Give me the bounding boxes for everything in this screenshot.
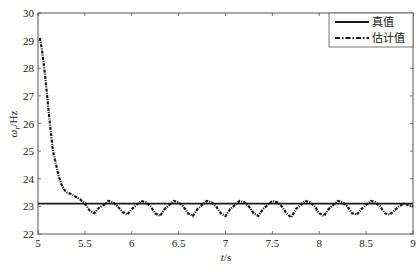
legend-label-estimate: 估计值 (372, 32, 405, 45)
x-tick-label: 8.5 (359, 237, 373, 249)
x-tick-label: 7.5 (266, 237, 280, 249)
legend: 真值 估计值 (329, 13, 413, 47)
x-tick-label: 6 (129, 237, 135, 249)
y-tick-label: 25 (23, 145, 35, 157)
x-tick-label: 6.5 (172, 237, 186, 249)
y-tick-label: 22 (23, 228, 34, 240)
y-axis-label: ωr/Hz (7, 110, 22, 137)
x-tick-label: 5.5 (78, 237, 92, 249)
y-tick-label: 28 (23, 62, 35, 74)
x-axis-label-unit: /s (224, 251, 231, 263)
y-tick-label: 23 (23, 200, 35, 212)
x-tick-label: 7 (223, 237, 229, 249)
x-tick-label: 9 (410, 237, 416, 249)
y-tick-label: 30 (23, 7, 35, 19)
chart: 222324252627282930 55.566.577.588.59 ωr/… (0, 0, 419, 271)
y-axis-label-unit: /Hz (7, 110, 19, 126)
y-tick-label: 27 (23, 90, 35, 102)
legend-label-true: 真值 (372, 15, 394, 29)
y-tick-label: 29 (23, 35, 35, 47)
y-tick-label: 24 (23, 173, 35, 185)
x-tick-label: 5 (35, 237, 41, 249)
x-tick-label: 8 (317, 237, 323, 249)
x-axis-label: t/s (221, 251, 231, 263)
y-tick-label: 26 (23, 118, 35, 130)
